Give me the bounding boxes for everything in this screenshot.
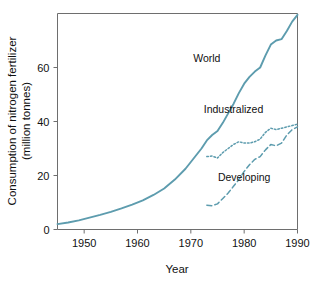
x-axis-title: Year xyxy=(165,263,188,275)
y-tick-label: 40 xyxy=(37,116,49,128)
x-tick-label: 1990 xyxy=(285,237,309,249)
series-line-world xyxy=(58,15,298,224)
data-series-group xyxy=(58,15,298,224)
y-tick-label: 20 xyxy=(37,170,49,182)
x-tick-label: 1960 xyxy=(125,237,149,249)
plot-frame xyxy=(58,14,298,230)
y-tick-label: 60 xyxy=(37,62,49,74)
series-label-world: World xyxy=(193,52,220,64)
x-tick-label: 1980 xyxy=(232,237,256,249)
series-label-industralized: Industralized xyxy=(204,103,264,115)
y-tick-label: 0 xyxy=(43,224,49,236)
series-line-industralized xyxy=(207,124,298,158)
x-tick-label: 1970 xyxy=(179,237,203,249)
nitrogen-fertilizer-line-chart: 0204060 19501960197019801990 WorldIndust… xyxy=(0,0,322,281)
x-axis-ticks: 19501960197019801990 xyxy=(72,230,310,249)
y-axis-title-line1: Consumption of nitrogen fertilizer xyxy=(6,36,18,205)
chart-container: 0204060 19501960197019801990 WorldIndust… xyxy=(0,0,322,281)
x-tick-label: 1950 xyxy=(72,237,96,249)
y-axis-title-line2: (million tonnes) xyxy=(20,82,32,160)
axis-titles: Year Consumption of nitrogen fertilizer … xyxy=(6,36,189,275)
series-line-developing xyxy=(207,127,298,206)
axis-frame-lines xyxy=(58,14,298,230)
series-label-developing: Developing xyxy=(218,171,271,183)
series-annotation-labels: WorldIndustralizedDeveloping xyxy=(193,52,270,183)
y-axis-ticks: 0204060 xyxy=(37,62,57,236)
